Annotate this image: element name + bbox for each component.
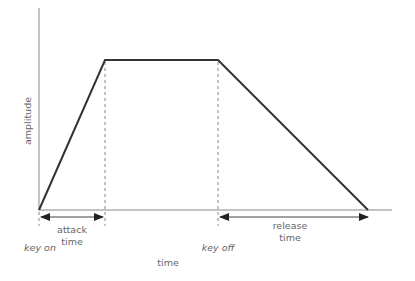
key-on-label: key on [24, 242, 56, 253]
release-label-line1: release [273, 220, 308, 231]
release-label-line2: time [279, 232, 301, 243]
x-axis-label: time [157, 257, 179, 268]
attack-label-line2: time [61, 236, 83, 247]
attack-label-line1: attack [57, 224, 87, 235]
key-off-label: key off [202, 242, 236, 253]
envelope-diagram: amplitude attack time release time key o… [0, 0, 415, 281]
envelope-curve [39, 60, 368, 210]
y-axis-label: amplitude [22, 97, 33, 145]
